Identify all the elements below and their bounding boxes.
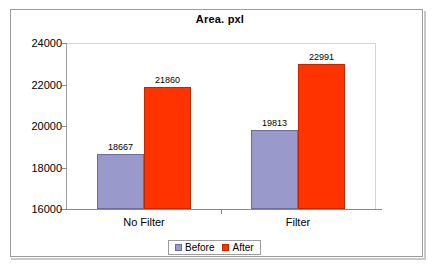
y-axis-tick-label: 16000 xyxy=(14,203,62,215)
y-axis-tick-label: 22000 xyxy=(14,79,62,91)
bar-value-label: 21860 xyxy=(138,75,197,85)
chart-legend: BeforeAfter xyxy=(168,240,261,255)
bar-value-label: 22991 xyxy=(292,52,351,62)
bar-value-label: 18667 xyxy=(91,142,150,152)
y-axis-tick-mark xyxy=(62,168,67,169)
bar-no-filter-after xyxy=(144,87,191,209)
bar-filter-before xyxy=(251,130,298,209)
y-axis-tick-label: 24000 xyxy=(14,37,62,49)
chart-frame-shadow-right xyxy=(424,11,426,260)
y-axis-tick-mark xyxy=(62,209,67,210)
y-axis-tick-labels: 1600018000200002200024000 xyxy=(12,0,62,273)
legend-swatch-before-icon xyxy=(175,244,182,251)
category-axis-tick-mark xyxy=(221,209,222,214)
y-axis-tick-mark xyxy=(62,126,67,127)
legend-label: After xyxy=(232,242,253,253)
category-label-no-filter: No Filter xyxy=(84,216,204,228)
y-axis-tick-mark xyxy=(62,43,67,44)
chart-title: Area. pxl xyxy=(60,13,380,25)
bar-no-filter-before xyxy=(97,154,144,209)
legend-swatch-after-icon xyxy=(222,244,229,251)
y-axis-tick-mark xyxy=(62,85,67,86)
chart-frame-shadow xyxy=(11,258,425,260)
legend-item-before: Before xyxy=(175,242,214,253)
y-axis-tick-label: 20000 xyxy=(14,120,62,132)
legend-label: Before xyxy=(185,242,214,253)
legend-item-after: After xyxy=(222,242,253,253)
category-label-filter: Filter xyxy=(238,216,358,228)
y-axis-tick-label: 18000 xyxy=(14,162,62,174)
bar-filter-after xyxy=(298,64,345,209)
bar-value-label: 19813 xyxy=(245,118,304,128)
